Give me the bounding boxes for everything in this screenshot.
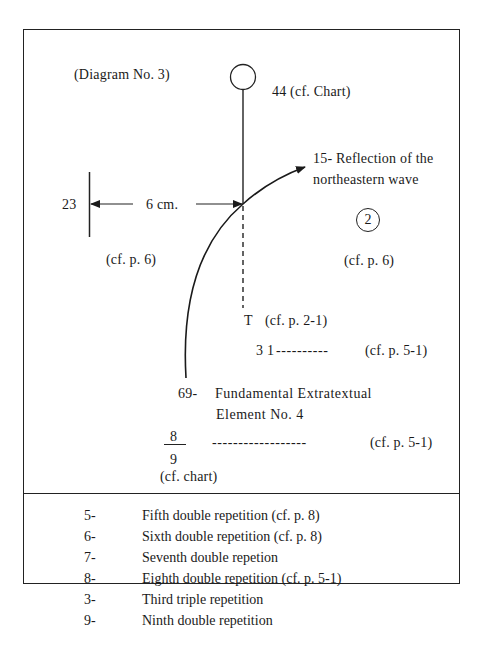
legend-item-text: Sixth double repetition (cf. p. 8) <box>142 529 322 545</box>
node-T-ref: (cf. p. 2-1) <box>265 313 327 329</box>
legend-item-text: Eighth double repetition (cf. p. 5-1) <box>142 571 341 587</box>
node-44-label: 44 (cf. Chart) <box>272 84 351 100</box>
legend-item-number: 5- <box>84 508 144 524</box>
node-44-circle <box>231 65 256 90</box>
legend-item-text: Seventh double repetion <box>142 550 278 566</box>
node-31-dashes: ---------- <box>276 343 329 359</box>
node-T-label: T <box>244 313 253 329</box>
legend-item-number: 9- <box>84 613 144 629</box>
ref-right: (cf. p. 6) <box>344 253 394 269</box>
fraction-dashes: ------------------ <box>212 435 307 451</box>
legend-item-number: 8- <box>84 571 144 587</box>
diagram-graphics <box>0 0 485 668</box>
legend-item-text: Third triple repetition <box>142 592 263 608</box>
legend-item-text: Ninth double repetition <box>142 613 273 629</box>
fraction-ref: (cf. p. 5-1) <box>370 435 432 451</box>
node-69-line1: Fundamental Extratextual <box>215 386 372 402</box>
node-15-line2: northeastern wave <box>313 172 419 188</box>
node-31-label: 3 1 <box>256 343 274 359</box>
legend-item-number: 3- <box>84 592 144 608</box>
diagram-title: (Diagram No. 3) <box>74 67 170 83</box>
legend-item-text: Fifth double repetition (cf. p. 8) <box>142 508 320 524</box>
node-23-label: 23 <box>62 197 76 213</box>
node-31-ref: (cf. p. 5-1) <box>365 343 427 359</box>
circled-number-2: 2 <box>356 208 380 232</box>
fraction-bar <box>164 444 186 445</box>
distance-label: 6 cm. <box>146 197 178 213</box>
fraction-caption: (cf. chart) <box>160 469 217 485</box>
ref-left: (cf. p. 6) <box>106 252 156 268</box>
node-69-number: 69- <box>178 386 197 402</box>
legend-item-number: 7- <box>84 550 144 566</box>
fraction-denominator: 9 <box>170 452 177 468</box>
fraction-numerator: 8 <box>170 429 177 445</box>
node-15-line1: 15- Reflection of the <box>313 151 433 167</box>
legend-item-number: 6- <box>84 529 144 545</box>
node-69-line2: Element No. 4 <box>216 407 304 423</box>
